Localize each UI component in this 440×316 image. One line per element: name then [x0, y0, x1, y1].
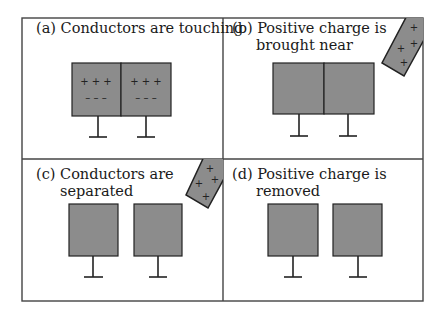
positive-charges-right: + + +	[130, 76, 162, 87]
conductor-right	[134, 204, 182, 256]
induction-diagram: (a) Conductors are touching + + + – – – …	[0, 0, 440, 316]
conductor-right	[324, 63, 374, 114]
positive-charged-rod: + + + +	[382, 6, 436, 76]
insulating-stand-left	[290, 114, 308, 136]
panel-a-label: (a) Conductors are touching	[36, 20, 243, 36]
negative-charges-left: – – –	[85, 92, 106, 103]
svg-text:+: +	[195, 178, 203, 189]
svg-text:+: +	[397, 43, 405, 54]
conductor-right	[121, 63, 171, 116]
panel-c-label-line2: separated	[60, 183, 133, 199]
svg-text:+: +	[206, 163, 214, 174]
svg-text:+: +	[410, 22, 418, 33]
panel-b-label-line2: brought near	[256, 37, 353, 53]
svg-text:+: +	[211, 174, 219, 185]
insulating-stand-right	[149, 256, 167, 277]
insulating-stand-left	[89, 116, 107, 137]
insulating-stand-right	[339, 114, 357, 136]
positive-charged-rod: + + + +	[186, 148, 234, 208]
negative-charges-right: – – –	[135, 92, 156, 103]
svg-text:+: +	[410, 38, 418, 49]
insulating-stand-right	[349, 256, 367, 277]
conductor-left	[273, 63, 324, 114]
conductor-left	[72, 63, 121, 116]
insulating-stand-left	[284, 256, 302, 277]
insulating-stand-left	[84, 256, 103, 277]
panel-d-label-line1: (d) Positive charge is	[232, 166, 387, 182]
conductor-left	[69, 204, 118, 256]
svg-text:+: +	[400, 57, 408, 68]
panel-b-label-line1: (b) Positive charge is	[232, 20, 387, 36]
panel-d: (d) Positive charge is removed	[232, 166, 387, 277]
panel-a: (a) Conductors are touching + + + – – – …	[36, 20, 243, 137]
svg-text:+: +	[202, 191, 210, 202]
panel-d-label-line2: removed	[256, 183, 320, 199]
panel-c-label-line1: (c) Conductors are	[36, 166, 174, 182]
insulating-stand-right	[137, 116, 155, 137]
panel-b: (b) Positive charge is brought near + + …	[232, 6, 436, 136]
conductor-left	[268, 204, 318, 256]
conductor-right	[333, 204, 382, 256]
positive-charges-left: + + +	[80, 76, 112, 87]
panel-c: (c) Conductors are separated + + + +	[36, 148, 234, 277]
